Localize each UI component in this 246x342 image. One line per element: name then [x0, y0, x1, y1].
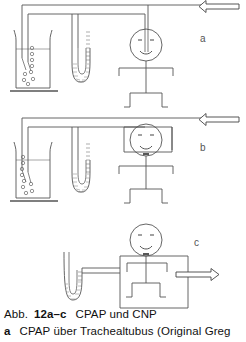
manometer-scale-b [86, 144, 90, 172]
panel-label-b: b [200, 142, 206, 153]
patient-figure-b [119, 124, 173, 203]
panel-label-c: c [194, 237, 199, 248]
panel-a-tubing [22, 5, 224, 62]
manometer-scale [86, 32, 90, 60]
panel-a [10, 1, 239, 108]
panel-c-tubing [82, 268, 120, 273]
caption-abbr: Abb. [4, 308, 28, 320]
caption-subpanel-marker: a [4, 325, 11, 337]
patient-figure-c [126, 224, 167, 297]
figure-root: a b c Abb.12a–cCPAP und CNP aCPAP über T… [0, 0, 246, 342]
figure-illustration [0, 0, 246, 342]
body-box [120, 256, 188, 308]
humidifier-beaker-b [10, 142, 58, 201]
panel-b [10, 114, 239, 204]
gas-inflow-arrow-b [199, 114, 239, 126]
gas-inflow-arrow-a [199, 1, 239, 13]
figure-caption-line-2: aCPAP über Trachealtubus (Original Greg [4, 325, 246, 337]
caption-figure-number: 12a–c [34, 308, 66, 320]
caption-title: CPAP und CNP [76, 308, 157, 320]
humidifier-bubbles [22, 46, 34, 85]
figure-caption-line-1: Abb.12a–cCPAP und CNP [4, 308, 246, 320]
humidifier-bubbles-b [20, 155, 33, 194]
humidifier-beaker [10, 30, 58, 91]
panel-label-a: a [200, 33, 206, 44]
manometer-scale-c [78, 272, 82, 280]
suction-outflow-arrow-c [176, 269, 219, 281]
panel-b-tubing [22, 118, 224, 172]
caption-subpanel-text: CPAP über Trachealtubus (Original Greg [20, 325, 231, 337]
patient-figure-a [119, 29, 173, 107]
